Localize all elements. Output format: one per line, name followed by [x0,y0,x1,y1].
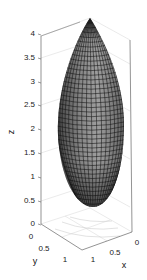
z-axis: 4 3.5 3 2.5 2 1.5 1 0.5 0 z [6,29,41,228]
z-tick-0: 0 [31,219,36,228]
x-tick-0.5: 0.5 [109,248,121,257]
teardrop-surface [57,18,127,208]
z-tick-2: 2 [31,124,36,133]
y-tick-0.5: 0.5 [38,244,50,253]
x-axis-label: x [122,260,127,270]
y-tick-1: 1 [63,255,68,264]
x-tick-1: 1 [91,255,96,264]
z-axis-label: z [6,129,16,134]
y-tick-0: 0 [29,232,34,241]
surface-plot: 4 3.5 3 2.5 2 1.5 1 0.5 0 z 0 0.5 1 y 0 … [0,0,147,280]
x-axis: 0 0.5 1 x [91,238,140,270]
z-tick-1: 1 [31,172,36,181]
z-tick-3: 3 [31,77,36,86]
z-tick-4: 4 [31,29,36,38]
z-tick-3.5: 3.5 [24,53,36,62]
z-tick-2.5: 2.5 [24,100,36,109]
floor-contours [55,217,120,237]
z-tick-0.5: 0.5 [24,196,36,205]
z-tick-1.5: 1.5 [24,148,36,157]
x-tick-0: 0 [135,238,140,247]
y-axis-label: y [33,256,38,266]
